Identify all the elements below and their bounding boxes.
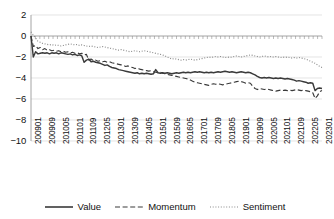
x-tick-label: 201509 xyxy=(173,117,182,144)
legend-swatch xyxy=(209,202,239,211)
x-tick-label: 202005 xyxy=(270,117,279,144)
x-tick-label: 201005 xyxy=(62,117,71,144)
x-tick-label: 201109 xyxy=(89,118,98,144)
y-tick-label: −6 xyxy=(0,93,26,104)
legend-item-value: Value xyxy=(44,201,102,212)
x-tick-label: 201101 xyxy=(76,118,85,144)
y-tick-label: 0 xyxy=(0,30,26,41)
x-tick-label: 201901 xyxy=(242,117,251,144)
x-tick-label: 202101 xyxy=(283,117,292,144)
legend-label: Value xyxy=(78,201,102,212)
x-tick-label: 201309 xyxy=(131,117,140,144)
x-tick-label: 200901 xyxy=(34,117,43,144)
x-tick-label: 201805 xyxy=(228,117,237,144)
series-line-value xyxy=(31,36,322,91)
y-tick-label: 2 xyxy=(0,9,26,20)
x-tick-label: 202205 xyxy=(311,117,320,144)
legend-label: Sentiment xyxy=(243,201,286,212)
x-tick-label: 201709 xyxy=(214,117,223,144)
series-line-momentum xyxy=(31,36,322,98)
x-tick-label: 200909 xyxy=(48,117,57,144)
y-tick-label: −10 xyxy=(0,135,26,146)
y-tick-label: −8 xyxy=(0,114,26,125)
x-tick-label: 201301 xyxy=(117,117,126,144)
legend-label: Momentum xyxy=(148,201,196,212)
x-tick-label: 201405 xyxy=(145,117,154,144)
x-tick-label: 202301 xyxy=(325,117,334,144)
y-tick-label: −4 xyxy=(0,72,26,83)
x-tick-label: 201205 xyxy=(103,117,112,144)
x-tick-label: 202109 xyxy=(297,117,306,144)
y-tick-label: −2 xyxy=(0,51,26,62)
x-tick-label: 201909 xyxy=(256,117,265,144)
legend-item-momentum: Momentum xyxy=(114,201,196,212)
legend-swatch xyxy=(114,202,144,211)
legend-item-sentiment: Sentiment xyxy=(209,201,286,212)
x-tick-label: 201701 xyxy=(200,117,209,144)
x-tick-label: 201501 xyxy=(159,117,168,144)
chart-legend: ValueMomentumSentiment xyxy=(0,196,329,216)
x-tick-label: 201605 xyxy=(186,117,195,144)
legend-swatch xyxy=(44,202,74,211)
